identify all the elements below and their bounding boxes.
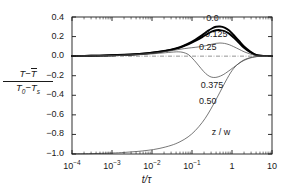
y-axis-title: T−T T0−Ts: [3, 69, 53, 95]
curve-label-0-0: 0.0: [206, 14, 219, 23]
x-tick-label: 10−3: [94, 160, 130, 171]
x-tick-base: 10: [183, 161, 193, 171]
figure-container: 0.4 0.2 0.0 −0.2 −0.4 −0.6 −0.8 −1.0 10−…: [0, 0, 293, 194]
y-tick-label: −1.0: [28, 149, 64, 158]
curve-label-0-375: 0.375: [201, 81, 224, 90]
y-tick-label: −0.8: [28, 129, 64, 138]
y-tick-label: 0.0: [28, 51, 64, 60]
y-tick-label: −0.6: [28, 110, 64, 119]
axis-ticks: [72, 17, 272, 154]
curve-label-0-50: 0.50: [199, 97, 217, 106]
x-tick-label: 10−1: [174, 160, 210, 171]
curve-label-z-over-w: z / w: [212, 128, 231, 137]
numerator-term-b: T: [31, 69, 37, 80]
denominator-term-b-subscript: s: [37, 88, 40, 95]
x-tick-exponent: −4: [73, 159, 80, 166]
x-tick-base: 10: [143, 161, 153, 171]
x-tick-exponent: −2: [153, 159, 160, 166]
y-axis-denominator: T0−Ts: [3, 82, 53, 95]
x-axis-title: t/τ: [0, 174, 293, 185]
x-tick-base: 1: [229, 161, 234, 171]
x-tick-base: 10: [63, 161, 73, 171]
x-tick-label: 10: [254, 160, 290, 171]
curve-label-0-125: 0.125: [205, 30, 228, 39]
y-tick-label: 0.4: [28, 13, 64, 22]
x-tick-base: 10: [267, 161, 277, 171]
x-tick-label: 10−4: [54, 160, 90, 171]
curve-label-0-25: 0.25: [199, 43, 217, 52]
x-tick-exponent: −1: [193, 159, 200, 166]
x-tick-label: 1: [214, 160, 250, 171]
data-curves: [72, 26, 272, 153]
x-tick-base: 10: [103, 161, 113, 171]
y-axis-numerator: T−T: [3, 69, 53, 82]
y-tick-label: 0.2: [28, 32, 64, 41]
x-tick-exponent: −3: [113, 159, 120, 166]
x-tick-label: 10−2: [134, 160, 170, 171]
axes-frame: [72, 17, 272, 154]
